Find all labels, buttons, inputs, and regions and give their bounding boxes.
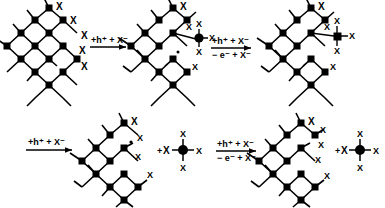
lattice-atoms-1: [4, 5, 81, 89]
plus-sign-2: +: [335, 146, 340, 156]
x-label: X: [135, 152, 141, 162]
x-label: X: [137, 133, 143, 143]
x-label: X: [357, 129, 363, 139]
lattice-with-pendant-mx4: X X X X X X: [119, 0, 215, 106]
arrow-step-2: +h⁺ + X⁻ − e⁻ + X⁻: [211, 36, 251, 60]
x-label: X: [70, 15, 77, 26]
x-label: X: [318, 1, 325, 12]
lattice-detaching-mx4: X X X X X X: [257, 0, 355, 106]
x-label: X: [196, 146, 202, 156]
x-label: X: [131, 116, 138, 127]
x-label: X: [373, 146, 379, 156]
x-label: X: [186, 22, 192, 32]
x-label: X: [196, 47, 202, 57]
x-label: X: [324, 171, 330, 181]
x-label: X: [324, 22, 330, 32]
free-halide-2: X: [341, 145, 348, 156]
arrow-step-1: +h⁺ + X⁻: [90, 35, 128, 50]
x-label: X: [357, 163, 363, 173]
mx4-bonds-1: [172, 139, 194, 161]
lattice-bonds-1: [0, 0, 77, 106]
x-label: X: [308, 116, 315, 127]
arrow-label-above: +h⁺ + X⁻: [28, 137, 65, 147]
arrow-label-above: +h⁺ + X⁻: [217, 139, 254, 149]
x-label: X: [334, 16, 340, 26]
x-label: X: [81, 30, 88, 41]
arrow-step-4: +h⁺ + X⁻ − e⁻ + X⁻: [216, 139, 256, 163]
lattice-atoms-5: [256, 120, 319, 204]
mx4-bonds-2: [349, 139, 371, 161]
detaching-mx4-bonds: [337, 26, 348, 46]
arrow-label-above: +h⁺ + X⁻: [212, 36, 249, 46]
lattice-bonds-3: [257, 0, 334, 106]
x-label: X: [180, 1, 187, 12]
x-label: X: [334, 46, 340, 56]
x-label: X: [315, 155, 321, 165]
x-label: X: [192, 62, 198, 72]
arrow-head: [119, 44, 126, 50]
x-label: X: [320, 125, 326, 135]
x-label: X: [56, 1, 63, 12]
arrow-label-below: − e⁻ + X⁻: [212, 50, 251, 60]
x-label: X: [330, 62, 336, 72]
x-label: X: [81, 61, 88, 72]
lattice-atoms-3: [266, 5, 342, 89]
lattice-bonds-2: [119, 0, 196, 106]
arrow-step-3: +h⁺ + X⁻: [26, 137, 72, 153]
arrow-head: [65, 147, 72, 153]
lattice-atoms-2: [128, 5, 204, 89]
released-mx4-unit-1: + X X X X: [157, 129, 202, 173]
plus-sign-1: +: [157, 146, 162, 156]
lattice-final: X X X X X: [247, 113, 330, 207]
x-label: X: [180, 129, 186, 139]
lattice-after-first-release: X X X X: [70, 113, 153, 207]
released-mx4-unit-2: + X X X X: [335, 129, 379, 173]
radical-dot: [129, 140, 132, 143]
pristine-lattice: X X X X X: [0, 0, 88, 106]
x-label: X: [180, 163, 186, 173]
x-label: X: [196, 19, 202, 29]
pendant-mx4-bonds: [199, 29, 208, 47]
x-label: X: [318, 140, 324, 150]
lattice-atoms-4: [79, 120, 142, 204]
scheme-canvas: X X X X X +h⁺ + X⁻: [0, 0, 385, 208]
x-label: X: [79, 45, 86, 56]
free-halide-1: X: [163, 145, 170, 156]
x-label: X: [349, 31, 355, 41]
reaction-scheme-figure: X X X X X +h⁺ + X⁻: [0, 0, 385, 208]
x-label: X: [147, 170, 153, 180]
radical-dot: [177, 51, 180, 54]
